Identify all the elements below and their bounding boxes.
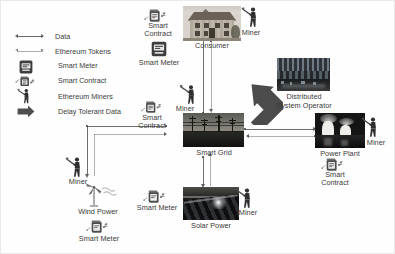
legend-item-smart-contract: Smart Contract (15, 74, 135, 89)
diagram-canvas: Data Ethereum Tokens Smart Meter (0, 0, 395, 254)
edge-smartgrid-solar-tokens (210, 156, 211, 186)
smartgrid-smart-contract-label-line2: Contract (129, 122, 175, 130)
arrow-thick-double-icon (15, 30, 51, 44)
edge-smartgrid-powerplant-tokens (249, 136, 315, 137)
edge-smartgrid-powerplant-data (245, 129, 315, 130)
wind-power-label: Wind Power (63, 208, 133, 216)
consumer-smart-meter-icon (151, 41, 167, 57)
edge-smartgrid-consumer-tokens (211, 41, 212, 113)
arrowhead-down (209, 109, 213, 112)
miner-icon (15, 88, 51, 102)
edge-smartgrid-solar-data (203, 156, 204, 186)
powerplant-miner-label: Miner (359, 139, 393, 147)
smart-grid-image (183, 113, 244, 147)
legend-item-ethereum-miners: Ethereum Miners (15, 88, 135, 104)
legend-label: Ethereum Tokens (55, 47, 111, 56)
consumer-image (183, 6, 241, 41)
edge-smartgrid-consumer-data (203, 41, 204, 113)
edge-endpoint (244, 128, 246, 130)
solar-smart-meter-label: Smart Meter (131, 204, 183, 212)
consumer-smart-contract-label-line2: Contract (134, 30, 182, 38)
legend-label: Delay Tolerant Data (58, 107, 121, 116)
legend-item-smart-meter: Smart Meter (15, 59, 135, 74)
power-plant-image (315, 113, 365, 148)
solar-power-label: Solar Power (179, 222, 243, 230)
wind-miner-icon (65, 156, 85, 178)
edge-endpoint (86, 125, 88, 127)
arrowhead-left (246, 134, 249, 138)
legend: Data Ethereum Tokens Smart Meter (15, 30, 135, 119)
arrowhead-right (164, 132, 167, 136)
wind-power-icon (80, 183, 126, 209)
legend-label: Ethereum Miners (58, 92, 113, 101)
consumer-label: Consumer (183, 42, 241, 50)
legend-label: Data (55, 32, 70, 41)
smart-grid-label: Smart Grid (179, 149, 249, 157)
consumer-miner-label: Miner (234, 29, 268, 37)
dso-label-line2: System Operator (267, 102, 341, 110)
legend-item-delay-tolerant-data: Delay Tolerant Data (15, 104, 135, 119)
powerplant-smart-contract-label-line2: Contract (312, 179, 358, 187)
edge-smartgrid-wind-data-v (87, 126, 88, 176)
solar-miner-label: Miner (231, 209, 265, 217)
legend-label: Smart Contract (58, 76, 106, 85)
wind-smart-meter-label: Smart Meter (73, 235, 125, 243)
smart-meter-icon (15, 59, 51, 73)
legend-item-data: Data (15, 30, 135, 45)
consumer-smart-meter-label: Smart Meter (132, 59, 186, 67)
wind-smart-meter-icon (86, 219, 112, 235)
powerplant-miner-icon (361, 116, 381, 138)
consumer-miner-icon (241, 6, 261, 28)
edge-smartgrid-wind-tokens-h (94, 134, 166, 135)
edge-smartgrid-wind-tokens-v (94, 134, 95, 176)
smartgrid-miner-icon (179, 84, 199, 105)
wind-miner-label: Miner (61, 178, 95, 186)
smartgrid-miner-label: Miner (167, 105, 203, 113)
legend-label: Smart Meter (58, 61, 98, 70)
arrow-thin-double-icon (15, 45, 51, 59)
legend-item-ethereum-tokens: Ethereum Tokens (15, 45, 135, 60)
solar-miner-icon (235, 187, 255, 209)
dso-image (277, 58, 330, 91)
smart-contract-icon (15, 74, 51, 88)
block-arrow-icon (15, 104, 51, 118)
